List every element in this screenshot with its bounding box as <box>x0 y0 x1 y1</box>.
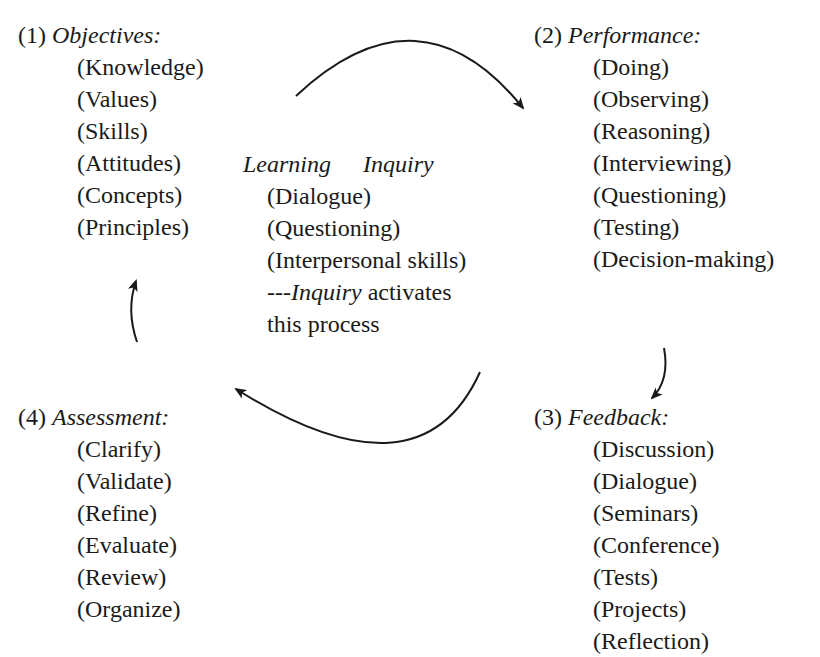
list-item: (Seminars) <box>593 497 720 529</box>
list-item: (Reflection) <box>593 625 720 657</box>
list-item: (Projects) <box>593 593 720 625</box>
stage-title: Feedback: <box>568 404 669 430</box>
list-item: (Doing) <box>593 51 774 83</box>
list-item: (Clarify) <box>77 433 181 465</box>
list-item: (Dialogue) <box>593 465 720 497</box>
stage-heading: (1) Objectives: <box>18 19 204 51</box>
list-item: (Interviewing) <box>593 147 774 179</box>
arrow-objectives-to-performance <box>296 41 523 108</box>
stage-objectives: (1) Objectives: (Knowledge) (Values) (Sk… <box>18 19 204 243</box>
learning-inquiry-center: Learning Inquiry (Dialogue) (Questioning… <box>243 148 466 340</box>
stage-number: (2) <box>534 22 562 48</box>
stage-performance: (2) Performance: (Doing) (Observing) (Re… <box>534 19 774 275</box>
center-title-inquiry: Inquiry <box>363 148 434 180</box>
list-item: (Principles) <box>77 211 204 243</box>
stage-heading: (4) Assessment: <box>18 401 181 433</box>
stage-number: (4) <box>18 404 46 430</box>
list-item: (Attitudes) <box>77 147 204 179</box>
stage-heading: (2) Performance: <box>534 19 774 51</box>
list-item: (Dialogue) <box>267 180 466 212</box>
center-title: Learning Inquiry <box>243 148 466 180</box>
list-item: (Organize) <box>77 593 181 625</box>
arrow-performance-to-feedback <box>652 348 666 398</box>
note-italic: Inquiry <box>291 279 362 305</box>
list-item: (Tests) <box>593 561 720 593</box>
list-item: (Decision-making) <box>593 243 774 275</box>
stage-feedback: (3) Feedback: (Discussion) (Dialogue) (S… <box>534 401 720 657</box>
list-item: (Evaluate) <box>77 529 181 561</box>
list-item: (Questioning) <box>593 179 774 211</box>
stage-number: (3) <box>534 404 562 430</box>
stage-title: Performance: <box>568 22 701 48</box>
center-title-learning: Learning <box>243 148 331 180</box>
list-item: (Interpersonal skills) <box>267 244 466 276</box>
list-item: (Observing) <box>593 83 774 115</box>
stage-title: Objectives: <box>52 22 161 48</box>
list-item: (Testing) <box>593 211 774 243</box>
list-item: (Concepts) <box>77 179 204 211</box>
note-prefix: --- <box>267 279 291 305</box>
center-note-line2: this process <box>267 308 466 340</box>
stage-heading: (3) Feedback: <box>534 401 720 433</box>
arrow-assessment-to-objectives <box>131 281 137 342</box>
list-item: (Reasoning) <box>593 115 774 147</box>
list-item: (Values) <box>77 83 204 115</box>
list-item: (Refine) <box>77 497 181 529</box>
stage-title: Assessment: <box>52 404 169 430</box>
list-item: (Questioning) <box>267 212 466 244</box>
arrow-feedback-to-assessment <box>236 372 480 443</box>
list-item: (Knowledge) <box>77 51 204 83</box>
list-item: (Conference) <box>593 529 720 561</box>
list-item: (Discussion) <box>593 433 720 465</box>
stage-assessment: (4) Assessment: (Clarify) (Validate) (Re… <box>18 401 181 625</box>
list-item: (Review) <box>77 561 181 593</box>
note-rest: activates <box>362 279 452 305</box>
center-note: ---Inquiry activates <box>267 276 466 308</box>
list-item: (Skills) <box>77 115 204 147</box>
stage-number: (1) <box>18 22 46 48</box>
list-item: (Validate) <box>77 465 181 497</box>
